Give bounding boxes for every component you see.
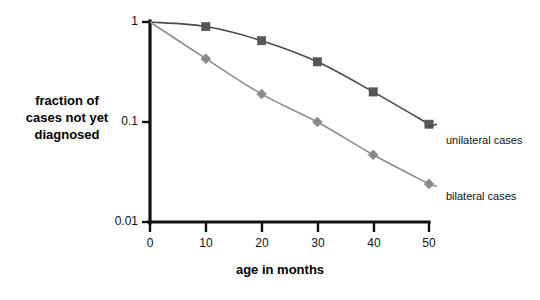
y-tick-label-0-1: 0.1 [100,114,138,128]
legend-label-bilateral: bilateral cases [446,190,516,202]
x-tick-label-30: 30 [303,236,333,250]
legend-connector-bilateral [429,185,437,186]
y-tick-label-0-01: 0.01 [92,214,138,228]
x-tick-label-0: 0 [135,236,165,250]
data-point [425,120,433,128]
y-tick-label-1: 1 [106,14,138,28]
data-point [368,150,378,160]
y-axis-title-line-3: diagnosed [8,126,126,143]
data-point [313,58,321,66]
x-tick-label-40: 40 [359,236,389,250]
x-tick-label-20: 20 [247,236,277,250]
data-point [369,88,377,96]
data-point [424,179,434,189]
plot-canvas [0,0,540,300]
data-point [312,117,322,127]
data-point [201,54,211,64]
data-point [202,22,210,30]
x-tick-label-50: 50 [414,236,444,250]
data-point [257,37,265,45]
data-point [257,89,267,99]
legend-label-unilateral: unilateral cases [446,134,522,146]
chart-figure: fraction of cases not yet diagnosed age … [0,0,540,300]
y-axis-title-line-1: fraction of [8,92,126,109]
series-layer [145,17,434,189]
x-tick-label-10: 10 [191,236,221,250]
series-line-bilateral [150,22,429,184]
x-axis-title: age in months [180,262,380,277]
